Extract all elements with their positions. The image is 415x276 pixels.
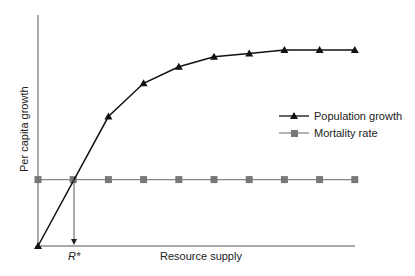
legend-label-mortality-rate: Mortality rate — [314, 127, 378, 139]
legend-label-population-growth: Population growth — [314, 110, 402, 122]
square-marker-icon — [351, 176, 358, 183]
x-axis-label: Resource supply — [160, 250, 242, 262]
chart-svg: R* Resource supply Per capita growth Pop… — [0, 0, 415, 276]
square-marker-icon — [316, 176, 323, 183]
square-marker-icon — [246, 176, 253, 183]
legend: Population growth Mortality rate — [279, 110, 402, 139]
chart: R* Resource supply Per capita growth Pop… — [0, 0, 415, 276]
arrowhead-icon — [71, 239, 77, 245]
series-population-growth — [34, 46, 359, 249]
square-marker-icon — [175, 176, 182, 183]
series-mortality-rate — [35, 176, 359, 183]
square-marker-icon — [105, 176, 112, 183]
square-marker-icon — [281, 176, 288, 183]
square-marker-icon — [211, 176, 218, 183]
square-marker-icon — [140, 176, 147, 183]
square-marker-icon — [35, 176, 42, 183]
y-axis-label: Per capita growth — [18, 86, 30, 172]
square-marker-icon — [291, 130, 298, 137]
r-star-label: R* — [68, 250, 81, 262]
